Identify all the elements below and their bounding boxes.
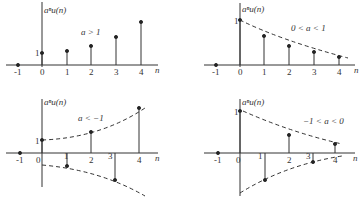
tick-label: 4 xyxy=(337,67,342,77)
tick-label: -1 xyxy=(214,155,222,165)
tick-label: 1 xyxy=(258,151,263,161)
unit-label: 1 xyxy=(234,107,239,117)
tick-label: 2 xyxy=(287,67,292,77)
tick-label: 2 xyxy=(287,155,292,165)
stem-plots-diagram: aⁿu(n) a > 1 1 -1 0 1 2 3 4 n aⁿu(n) 0 <… xyxy=(0,0,363,211)
y-axis-label: aⁿu(n) xyxy=(44,5,66,15)
tick-label: 1 xyxy=(262,67,267,77)
unit-label: 1 xyxy=(35,48,40,58)
condition-label: a > 1 xyxy=(81,27,101,37)
unit-label: 1 xyxy=(35,136,40,146)
y-axis-label: aⁿu(n) xyxy=(242,4,264,14)
y-axis-label: aⁿu(n) xyxy=(242,97,264,107)
condition-label: −1 < a < 0 xyxy=(303,116,344,126)
panel-a-gt-1 xyxy=(16,20,142,66)
tick-label: 0 xyxy=(236,155,241,165)
tick-label: 4 xyxy=(333,155,338,165)
tick-label: 2 xyxy=(89,67,94,77)
condition-label: 0 < a < 1 xyxy=(291,23,326,33)
x-axis-label: n xyxy=(155,153,160,163)
x-axis-label: n xyxy=(353,153,358,163)
tick-label: 2 xyxy=(89,155,94,165)
tick-label: 3 xyxy=(114,67,119,77)
tick-label: -1 xyxy=(14,67,22,77)
tick-label: 3 xyxy=(108,151,113,161)
tick-label: 0 xyxy=(36,155,41,165)
tick-label: 1 xyxy=(65,67,70,77)
tick-label: 0 xyxy=(238,67,243,77)
tick-label: 3 xyxy=(312,67,317,77)
tick-label: 0 xyxy=(40,67,45,77)
tick-label: 4 xyxy=(137,155,142,165)
tick-label: -1 xyxy=(16,155,24,165)
tick-label: 3 xyxy=(306,151,311,161)
condition-label: a < −1 xyxy=(78,113,104,123)
unit-label: 1 xyxy=(234,16,239,26)
tick-label: 4 xyxy=(139,67,144,77)
tick-label: 1 xyxy=(64,151,69,161)
y-axis-label: aⁿu(n) xyxy=(44,97,66,107)
x-axis-label: n xyxy=(155,65,160,75)
x-axis-label: n xyxy=(354,65,359,75)
tick-label: -1 xyxy=(212,67,220,77)
